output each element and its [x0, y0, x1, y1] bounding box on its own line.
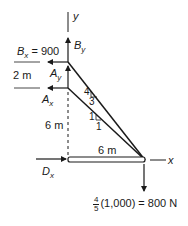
slope-lower-rise: 1 [89, 112, 95, 122]
slope-upper-run: 3 [89, 97, 95, 107]
ab-spacing-label: 2 m [13, 70, 31, 81]
bx-label: Bx = 900 [17, 46, 59, 57]
vertical-dimension-label: 6 m [45, 120, 63, 131]
by-label: By [74, 40, 85, 51]
ax-label: Ax [42, 94, 53, 105]
horizontal-dimension-label: 6 m [98, 145, 116, 156]
x-axis-label: x [168, 155, 174, 166]
load-label: 4 5 (1,000) = 800 N [93, 196, 177, 213]
member-dc [68, 157, 145, 162]
dx-label: Dx [42, 166, 54, 177]
ay-label: Ay [50, 68, 61, 79]
load-fraction: 4 5 [93, 196, 99, 213]
slope-lower-run: 1 [96, 122, 102, 132]
y-axis-label: y [73, 11, 79, 22]
